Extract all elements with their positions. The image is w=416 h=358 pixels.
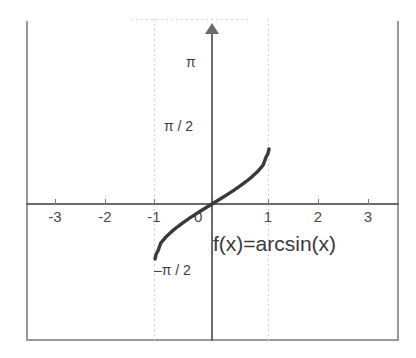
function-annotation: f(x)=arcsin(x) [213,232,336,256]
plot-area: -3 -2 -1 0 1 2 3 π π / 2 –π / 2 f(x)=arc… [26,19,399,341]
arcsin-graph-figure: -3 -2 -1 0 1 2 3 π π / 2 –π / 2 f(x)=arc… [0,0,416,358]
arcsin-curve [26,19,399,341]
